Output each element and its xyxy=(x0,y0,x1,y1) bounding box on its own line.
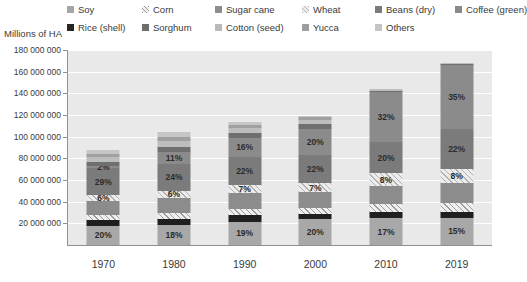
y-axis-labels: 180 000 000160 000 000140 000 000120 000… xyxy=(0,46,61,258)
bar-segment[interactable] xyxy=(87,150,120,154)
bar-segment[interactable] xyxy=(157,137,190,142)
bar-segment[interactable] xyxy=(87,215,120,220)
bar-segment[interactable] xyxy=(228,209,261,215)
bar-segment[interactable]: 15% xyxy=(440,218,473,245)
bar-segment[interactable]: 35% xyxy=(440,65,473,129)
bar-segment[interactable]: 18% xyxy=(157,225,190,245)
bar-segment[interactable] xyxy=(157,147,190,152)
bar-segment[interactable]: 20% xyxy=(369,142,402,173)
bar-segment[interactable] xyxy=(299,192,332,207)
bar-segment[interactable]: 2% xyxy=(87,166,120,168)
bar-segment[interactable] xyxy=(369,212,402,218)
bar-segment[interactable]: 29% xyxy=(87,168,120,196)
bar-segment[interactable] xyxy=(87,154,120,158)
bar-segment[interactable] xyxy=(157,219,190,225)
bar-segment[interactable] xyxy=(157,141,190,147)
bar-segment[interactable] xyxy=(87,220,120,226)
y-axis-tick-label: 120 000 000 xyxy=(3,110,61,120)
bar-segment[interactable]: 32% xyxy=(369,92,402,142)
legend-item-rice-shell[interactable]: Rice (shell) xyxy=(67,22,126,33)
bar-segment[interactable]: 17% xyxy=(369,218,402,245)
stacked-bar[interactable]: 20%6%29%2% xyxy=(87,150,120,245)
bar-segment[interactable] xyxy=(157,132,190,137)
stacked-bar[interactable]: 17%8%20%32% xyxy=(369,89,402,245)
bar-segment[interactable]: 19% xyxy=(228,222,261,245)
legend-item-corn[interactable]: Corn xyxy=(142,4,174,15)
bar-segment[interactable] xyxy=(369,186,402,205)
bar-segment[interactable] xyxy=(440,64,473,65)
bar-segment[interactable] xyxy=(157,198,190,214)
bar-group: 18%6%24%11% xyxy=(139,50,210,245)
bar-segment[interactable] xyxy=(369,204,402,212)
legend-label: Others xyxy=(386,22,415,33)
bar-segment[interactable] xyxy=(299,120,332,124)
bar-segment[interactable] xyxy=(299,214,332,219)
stacked-bar[interactable]: 18%6%24%11% xyxy=(157,132,190,245)
bar-segment[interactable] xyxy=(369,91,402,93)
bar-segment-label: 20% xyxy=(369,153,402,162)
bar-segment[interactable]: 6% xyxy=(157,191,190,198)
bar-segment[interactable]: 24% xyxy=(157,164,190,191)
bar-segment[interactable] xyxy=(299,208,332,214)
bar-segment[interactable] xyxy=(228,215,261,221)
legend-item-others[interactable]: Others xyxy=(375,22,415,33)
bar-segment[interactable]: 16% xyxy=(228,138,261,158)
bar-segment[interactable] xyxy=(87,157,120,162)
bar-segment[interactable] xyxy=(299,117,332,120)
bar-segment[interactable] xyxy=(228,125,261,128)
legend-item-wheat[interactable]: Wheat xyxy=(302,4,340,15)
stacked-bar[interactable]: 20%7%22%20% xyxy=(299,116,332,245)
y-axis-tick xyxy=(63,93,67,94)
bar-segment-label: 18% xyxy=(157,230,190,239)
bar-segment[interactable]: 11% xyxy=(157,152,190,164)
legend-item-sugar-cane[interactable]: Sugar cane xyxy=(215,4,275,15)
y-axis-tick-label: 60 000 000 xyxy=(3,175,61,185)
bar-segment[interactable]: 8% xyxy=(440,169,473,184)
bar-segment[interactable] xyxy=(299,116,332,117)
bar-segment[interactable]: 22% xyxy=(440,129,473,169)
legend-item-yucca[interactable]: Yucca xyxy=(302,22,339,33)
legend-item-soy[interactable]: Soy xyxy=(67,4,94,15)
x-axis-line xyxy=(67,245,492,246)
y-axis-tick xyxy=(63,180,67,181)
bar-segment[interactable] xyxy=(440,183,473,203)
bar-segment[interactable]: 7% xyxy=(299,183,332,192)
bar-group: 19%7%22%16% xyxy=(209,50,280,245)
stacked-bar[interactable]: 15%8%22%35% xyxy=(440,63,473,245)
legend-item-coffee-green[interactable]: Coffee (green) xyxy=(455,4,527,15)
bar-segment[interactable]: 7% xyxy=(228,185,261,194)
bar-segment[interactable] xyxy=(228,122,261,125)
bar-segment-label: 29% xyxy=(87,177,120,186)
bar-segment[interactable] xyxy=(299,124,332,129)
stacked-bar[interactable]: 19%7%22%16% xyxy=(228,122,261,245)
bar-segment[interactable] xyxy=(369,89,402,91)
legend-label: Beans (dry) xyxy=(386,4,435,15)
bar-segment[interactable] xyxy=(87,162,120,166)
bar-segment[interactable] xyxy=(440,212,473,217)
bar-group: 20%6%29%2% xyxy=(68,50,139,245)
bar-segment[interactable]: 8% xyxy=(369,173,402,185)
bar-segment[interactable]: 22% xyxy=(228,157,261,184)
legend-item-beans-dry[interactable]: Beans (dry) xyxy=(375,4,435,15)
bar-segment[interactable] xyxy=(87,201,120,215)
bar-segment[interactable] xyxy=(157,213,190,219)
bar-segment[interactable]: 20% xyxy=(299,219,332,245)
bar-segment[interactable] xyxy=(228,133,261,138)
x-axis-tick-label: 1970 xyxy=(68,258,139,270)
bar-segment[interactable] xyxy=(228,128,261,133)
legend-item-cotton-seed[interactable]: Cotton (seed) xyxy=(215,22,284,33)
bar-segment[interactable]: 6% xyxy=(87,195,120,201)
bar-segment[interactable]: 20% xyxy=(299,129,332,155)
y-axis-tick xyxy=(63,202,67,203)
bar-segment[interactable]: 22% xyxy=(299,155,332,183)
y-axis-tick xyxy=(63,50,67,51)
x-axis-tick-label: 2019 xyxy=(421,258,492,270)
bar-segment[interactable]: 20% xyxy=(87,226,120,245)
bar-segment-label: 11% xyxy=(157,153,190,162)
legend-item-sorghum[interactable]: Sorghum xyxy=(142,22,192,33)
bar-segment[interactable] xyxy=(228,193,261,209)
bar-segment[interactable] xyxy=(440,63,473,64)
bar-group: 15%8%22%35% xyxy=(421,50,492,245)
bar-segment[interactable] xyxy=(440,203,473,212)
